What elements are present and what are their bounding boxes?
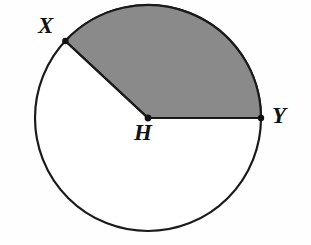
point-label-X: X: [38, 14, 53, 37]
point-marker-X: [62, 38, 68, 44]
point-label-H: H: [134, 121, 152, 144]
point-label-Y: Y: [272, 104, 286, 127]
geometry-figure: X Y H: [0, 0, 311, 245]
point-marker-Y: [258, 115, 264, 121]
